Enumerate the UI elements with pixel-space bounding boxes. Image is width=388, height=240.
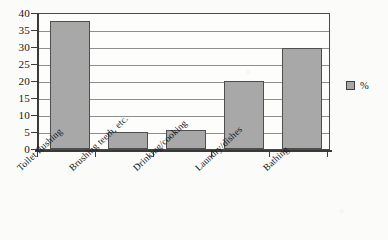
y-axis-labels: 40 35 30 25 20 15 10 5 0: [0, 0, 30, 240]
y-axis-line: [37, 13, 39, 151]
y-axis-tick-label: 5: [4, 127, 30, 138]
legend-label-percent: %: [360, 80, 369, 91]
y-axis-tick-label: 30: [4, 42, 30, 53]
y-axis-tick-label: 35: [4, 25, 30, 36]
y-axis-tick-label: 40: [4, 8, 30, 19]
legend: %: [346, 80, 369, 91]
y-axis-tick-label: 25: [4, 59, 30, 70]
y-axis-tick-label: 20: [4, 76, 30, 87]
y-axis-tick-label: 15: [4, 93, 30, 104]
x-axis-tick: [327, 151, 328, 157]
chart-screenshot: 40 35 30 25 20 15 10 5 0: [0, 0, 388, 240]
bar-bathing: [282, 48, 322, 149]
legend-swatch-percent: [346, 81, 355, 90]
y-axis-tick-label: 10: [4, 110, 30, 121]
